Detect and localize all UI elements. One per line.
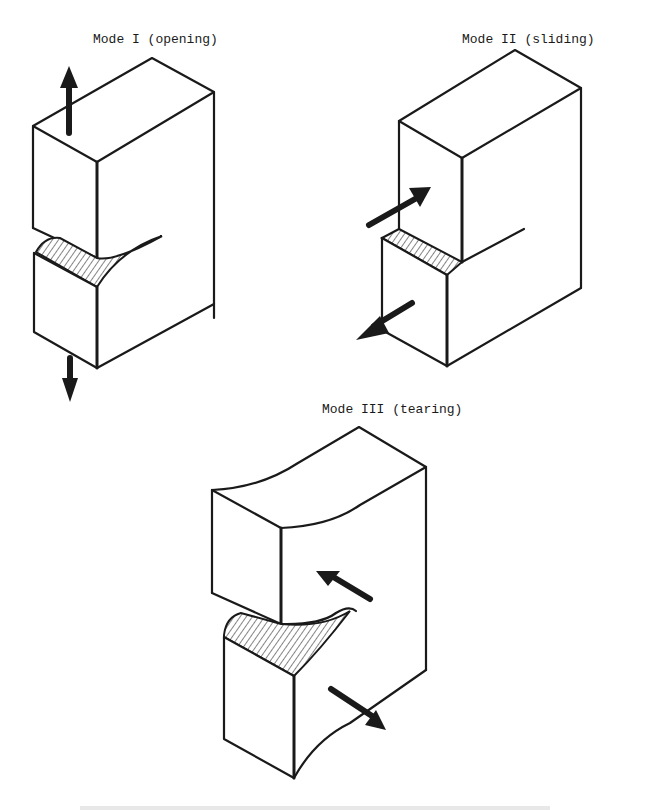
mode-2-group: Mode II (sliding) xyxy=(356,32,595,366)
mode-3-label: Mode III (tearing) xyxy=(322,402,462,417)
mode-1-group: Mode I (opening) xyxy=(33,32,218,402)
fracture-modes-diagram: Mode I (opening) Mo xyxy=(0,0,645,810)
arrow-down-icon xyxy=(62,358,78,402)
mode-3-group: Mode III (tearing) xyxy=(212,402,462,778)
figure-caption-cutoff xyxy=(80,806,550,810)
mode-1-label: Mode I (opening) xyxy=(93,32,218,47)
mode-2-label: Mode II (sliding) xyxy=(462,32,595,47)
